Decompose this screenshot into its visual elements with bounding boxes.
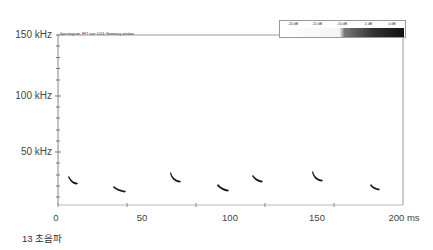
- spectrogram-caption: Spectrogram, FFT size 1024, Hamming wind…: [60, 32, 135, 36]
- x-tick-label-0: 0: [53, 212, 58, 223]
- legend-label: -10 dB: [337, 22, 347, 26]
- legend-label: -5 dB: [364, 22, 372, 26]
- legend-label: -20 dB: [288, 22, 298, 26]
- ultrasound-calls: [68, 171, 380, 193]
- legend-label: 0 dB: [388, 22, 395, 26]
- legend-label: -15 dB: [312, 22, 322, 26]
- figure-caption: 13 초음파: [22, 231, 62, 245]
- x-tick-label-150: 150: [309, 212, 325, 223]
- color-scale-bar: [280, 28, 404, 37]
- x-tick-label-50: 50: [137, 212, 148, 223]
- x-tick-label-100: 100: [222, 212, 238, 223]
- x-tick-label-200: 200 ms: [388, 212, 419, 223]
- color-legend: -20 dB -15 dB -10 dB -5 dB 0 dB: [279, 20, 406, 38]
